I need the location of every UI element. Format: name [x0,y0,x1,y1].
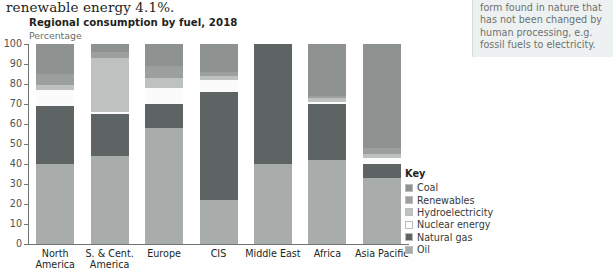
bar-stack[interactable] [363,44,401,244]
y-axis-tick-label: 80 [0,78,22,89]
bar-segment-nuclear-energy[interactable] [145,88,183,104]
bar-segment-renewables[interactable] [91,52,129,58]
bar-segment-renewables[interactable] [145,66,183,78]
bar-segment-renewables[interactable] [200,72,238,76]
sidenote-line-3: human processing, e.g. [480,27,607,39]
legend-title: Key [405,168,525,179]
bar-segment-natural-gas[interactable] [36,106,74,164]
legend-swatch-icon [405,196,413,204]
legend-item[interactable]: Renewables [405,194,525,206]
bar-segment-nuclear-energy[interactable] [200,80,238,92]
bar-segment-coal[interactable] [91,44,129,52]
bar-stack[interactable] [145,44,183,244]
bar-segment-natural-gas[interactable] [91,114,129,156]
bar-segment-renewables[interactable] [308,96,346,98]
bar-segment-nuclear-energy[interactable] [36,90,74,106]
bar-segment-nuclear-energy[interactable] [308,102,346,104]
bar-segment-natural-gas[interactable] [308,104,346,160]
legend-swatch-icon [405,184,413,192]
legend-item[interactable]: Natural gas [405,231,525,243]
legend-item[interactable]: Coal [405,182,525,194]
legend-item-label: Coal [417,182,438,193]
y-axis-tick-label: 20 [0,198,22,209]
y-axis-tick-label: 10 [0,218,22,229]
bar-segment-coal[interactable] [363,44,401,148]
bar-segment-oil[interactable] [91,156,129,244]
bar-segment-hydroelectricity[interactable] [200,76,238,80]
plot-area [28,44,408,244]
sidenote-line-2: has not been changed by [480,14,607,26]
bar-segment-coal[interactable] [36,44,74,74]
bar-segment-oil[interactable] [254,164,292,244]
x-axis-label-line: America [74,259,144,270]
y-axis-tick-label: 60 [0,118,22,129]
y-axis-tick [24,244,28,245]
bar-segment-natural-gas[interactable] [254,44,292,164]
legend-rows: CoalRenewablesHydroelectricityNuclear en… [405,182,525,256]
bar-segment-oil[interactable] [36,164,74,244]
bar-segment-renewables[interactable] [363,148,401,154]
legend-item-label: Nuclear energy [417,219,490,230]
legend-item[interactable]: Oil [405,243,525,255]
y-axis-tick-label: 30 [0,178,22,189]
chart-page: renewable energy 4.1%. form found in nat… [0,0,613,272]
bar-segment-nuclear-energy[interactable] [363,158,401,164]
legend-swatch-icon [405,233,413,241]
legend-swatch-icon [405,208,413,216]
y-axis-tick-label: 70 [0,98,22,109]
bar-segment-hydroelectricity[interactable] [91,58,129,112]
bar-stack[interactable] [91,44,129,244]
legend-item-label: Hydroelectricity [417,207,493,218]
bar-stack[interactable] [200,44,238,244]
body-running-text: renewable energy 4.1%. [6,0,174,15]
bar-segment-renewables[interactable] [36,74,74,85]
bar-segment-hydroelectricity[interactable] [308,98,346,102]
legend-item-label: Oil [417,244,430,255]
bar-segment-coal[interactable] [145,44,183,66]
sidenote-line-4: fossil fuels to electricity. [480,39,607,51]
bar-segment-nuclear-energy[interactable] [91,112,129,114]
y-axis-tick-label: 0 [0,238,22,249]
y-axis-tick-label: 50 [0,138,22,149]
glossary-sidenote: form found in nature that has not been c… [472,0,613,57]
bar-segment-oil[interactable] [200,200,238,244]
bar-segment-coal[interactable] [308,44,346,96]
bar-segment-hydroelectricity[interactable] [363,154,401,158]
bar-stack[interactable] [36,44,74,244]
legend-item-label: Natural gas [417,232,472,243]
bar-segment-oil[interactable] [308,160,346,244]
legend-item[interactable]: Hydroelectricity [405,206,525,218]
bar-segment-oil[interactable] [363,178,401,244]
legend-swatch-icon [405,246,413,254]
bar-segment-oil[interactable] [145,128,183,244]
y-axis-tick-label: 40 [0,158,22,169]
x-axis-line [28,244,409,245]
bar-segment-coal[interactable] [200,44,238,72]
bar-segment-hydroelectricity[interactable] [36,85,74,90]
bar-segment-natural-gas[interactable] [200,92,238,200]
legend-swatch-icon [405,221,413,229]
sidenote-line-1: form found in nature that [480,2,607,14]
bar-segment-hydroelectricity[interactable] [145,78,183,88]
bar-segment-natural-gas[interactable] [363,164,401,178]
y-axis-tick-label: 100 [0,38,22,49]
chart-legend: Key CoalRenewablesHydroelectricityNuclea… [405,168,525,256]
bar-stack[interactable] [308,44,346,244]
legend-item-label: Renewables [417,195,475,206]
chart-subtitle: Percentage [29,30,82,41]
bar-stack[interactable] [254,44,292,244]
legend-item[interactable]: Nuclear energy [405,219,525,231]
bar-segment-natural-gas[interactable] [145,104,183,128]
y-axis-tick-label: 90 [0,58,22,69]
chart-title: Regional consumption by fuel, 2018 [29,17,237,28]
